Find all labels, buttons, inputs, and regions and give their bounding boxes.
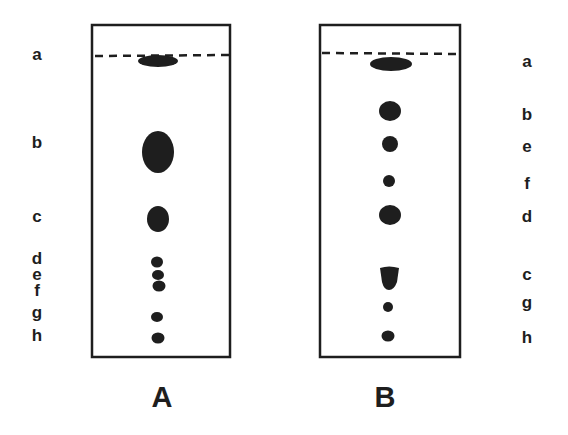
tlc-figure: a b c d e f g h a b e f d c g h A B <box>0 0 568 435</box>
plate-b-label-e: e <box>522 137 531 156</box>
plate-b-spot-g <box>383 302 393 312</box>
plate-b-label-f: f <box>524 174 530 193</box>
plate-b-spot-h <box>382 331 395 342</box>
plate-b-spot-b <box>379 101 401 121</box>
plate-a-label-f: f <box>34 281 40 300</box>
plate-a-spot-h <box>152 333 165 344</box>
plate-a-label-b: b <box>32 133 42 152</box>
plate-b-solvent-front <box>322 53 460 54</box>
plate-a <box>92 25 230 357</box>
plate-a-title: A <box>152 381 173 413</box>
plate-a-spot-c <box>147 206 169 232</box>
plate-a-side-labels: a b c d e f g h <box>32 45 42 345</box>
plate-a-outline <box>92 25 230 357</box>
plate-b-title: B <box>375 381 396 413</box>
plate-a-label-c: c <box>32 207 41 226</box>
plate-b-spot-f <box>383 175 395 187</box>
plate-a-label-g: g <box>32 303 42 322</box>
plate-b-label-h: h <box>522 328 532 347</box>
plate-b-spot-e <box>382 136 398 152</box>
plate-a-label-a: a <box>32 45 42 64</box>
plate-a-spot-d <box>151 257 163 268</box>
plate-a-spot-a <box>138 55 178 67</box>
plate-b <box>320 25 460 357</box>
plate-a-spot-f <box>153 281 166 292</box>
plate-b-label-d: d <box>522 207 532 226</box>
plate-a-label-h: h <box>32 326 42 345</box>
plate-a-spot-b <box>142 131 174 173</box>
plate-b-spot-d <box>379 205 401 225</box>
plate-b-side-labels: a b e f d c g h <box>522 52 532 347</box>
plate-b-label-g: g <box>522 293 532 312</box>
plate-a-spot-e <box>152 270 164 280</box>
plate-b-label-c: c <box>522 265 531 284</box>
plate-a-spot-g <box>151 312 163 322</box>
plate-b-spot-a <box>370 57 412 71</box>
plate-b-label-a: a <box>522 52 532 71</box>
plate-b-label-b: b <box>522 105 532 124</box>
plate-b-spot-c <box>380 267 399 291</box>
